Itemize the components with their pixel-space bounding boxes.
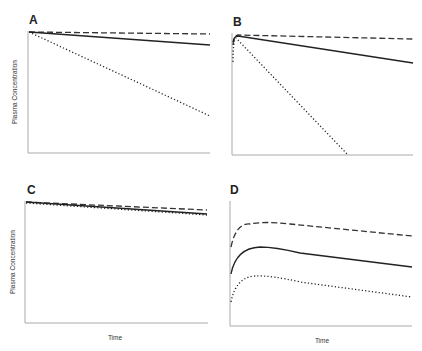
y-axis-label: Plasma Concentration — [11, 60, 18, 124]
figure: A Plasma Concentration B C Plasma Concen… — [0, 0, 422, 351]
x-axis-label: Time — [315, 337, 330, 344]
series-dotted — [29, 32, 210, 116]
series-solid — [231, 247, 412, 274]
series-dotted — [233, 38, 348, 155]
panel-d: D Time — [230, 183, 412, 344]
series-solid — [233, 36, 413, 63]
series-dashed — [231, 223, 412, 248]
x-axis-label: Time — [108, 334, 123, 341]
panel-label-a: A — [29, 13, 38, 27]
series-dotted — [231, 276, 412, 302]
panel-label-b: B — [233, 15, 242, 29]
panel-b: B — [232, 15, 413, 155]
series-solid — [26, 202, 207, 214]
y-axis-label: Plasma Concentration — [9, 230, 16, 294]
panel-c: C Plasma Concentration Time — [9, 183, 208, 341]
panel-label-d: D — [230, 183, 239, 197]
panel-label-c: C — [27, 183, 36, 197]
panel-a: A Plasma Concentration — [11, 13, 210, 153]
